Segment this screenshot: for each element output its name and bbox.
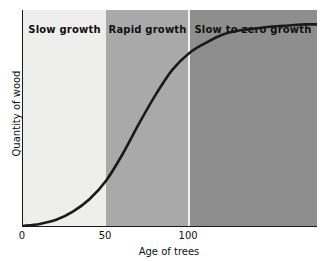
x-tick-100: 100: [179, 230, 198, 241]
x-tick-50: 50: [99, 230, 112, 241]
x-tick-0: 0: [19, 230, 25, 241]
plot-area: Slow growth Rapid growth Slow to zero gr…: [22, 10, 317, 227]
growth-curve-figure: Slow growth Rapid growth Slow to zero gr…: [0, 0, 330, 261]
growth-curve: [23, 10, 317, 226]
y-axis-title: Quantity of wood: [11, 54, 22, 174]
growth-curve-path: [23, 24, 317, 226]
x-axis-title: Age of trees: [22, 246, 316, 257]
